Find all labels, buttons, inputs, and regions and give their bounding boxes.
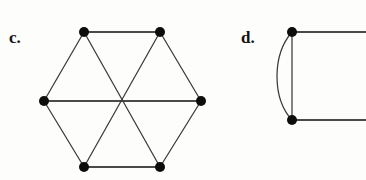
graph-c-drawing: [0, 0, 228, 180]
vertex-upper: [287, 27, 297, 37]
vertex-left-middle: [39, 96, 49, 106]
vertex-bottom-left: [79, 162, 89, 172]
vertex-right-middle: [196, 96, 206, 106]
vertex-top-left: [79, 27, 89, 37]
edge-top-right-to-right-middle: [160, 32, 201, 101]
vertex-bottom-right: [155, 162, 165, 172]
vertex-top-right: [155, 27, 165, 37]
edge-right-middle-to-bottom-right: [160, 101, 201, 167]
edge-bottom-left-to-left-middle: [44, 101, 84, 167]
panel-d: d.: [228, 0, 366, 180]
edge-curved-parallel: [277, 32, 292, 120]
panel-c: c.: [0, 0, 228, 180]
graph-figure: c. d.: [0, 0, 366, 180]
graph-d-drawing: [228, 0, 366, 180]
vertex-lower: [287, 115, 297, 125]
edge-left-middle-to-top-left: [44, 32, 84, 101]
